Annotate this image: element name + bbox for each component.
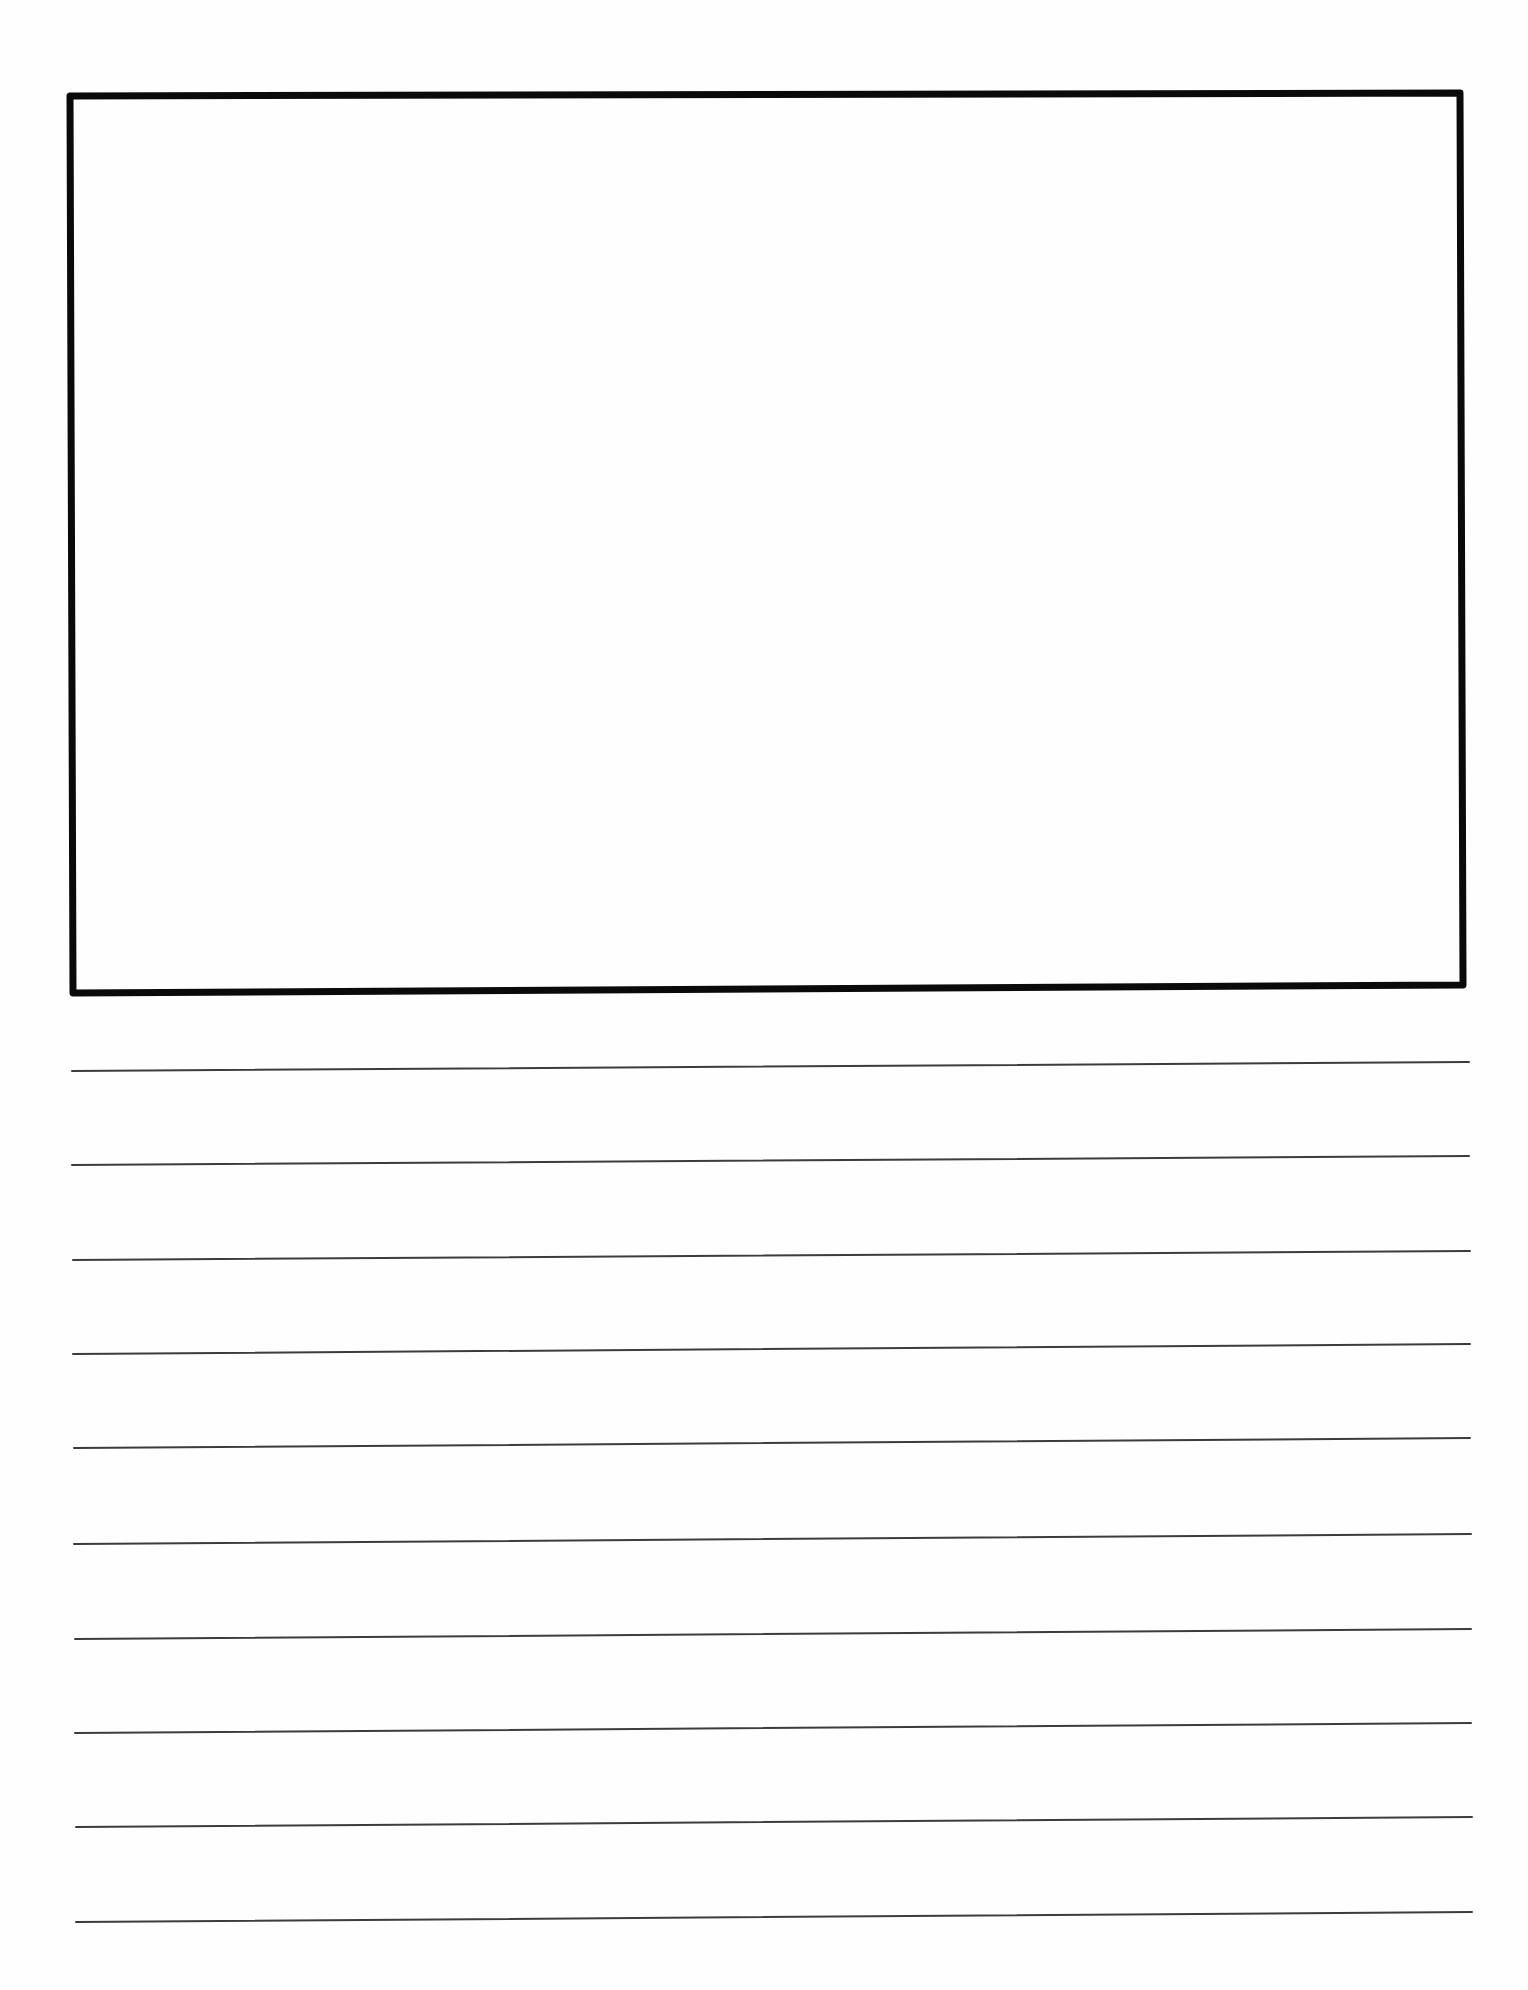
writing-line-8[interactable] [75,1723,1471,1733]
writing-line-1[interactable] [72,1062,1469,1071]
writing-line-5[interactable] [74,1438,1470,1448]
writing-line-7[interactable] [75,1629,1471,1639]
writing-lines [72,1062,1472,1922]
writing-line-4[interactable] [73,1344,1470,1354]
drawing-box[interactable] [70,93,1463,993]
writing-line-3[interactable] [73,1251,1470,1260]
writing-line-10[interactable] [76,1912,1472,1922]
writing-line-2[interactable] [72,1156,1469,1165]
worksheet-canvas [0,0,1528,1990]
writing-line-9[interactable] [76,1817,1472,1827]
worksheet-page [0,0,1528,1990]
writing-line-6[interactable] [74,1534,1471,1544]
